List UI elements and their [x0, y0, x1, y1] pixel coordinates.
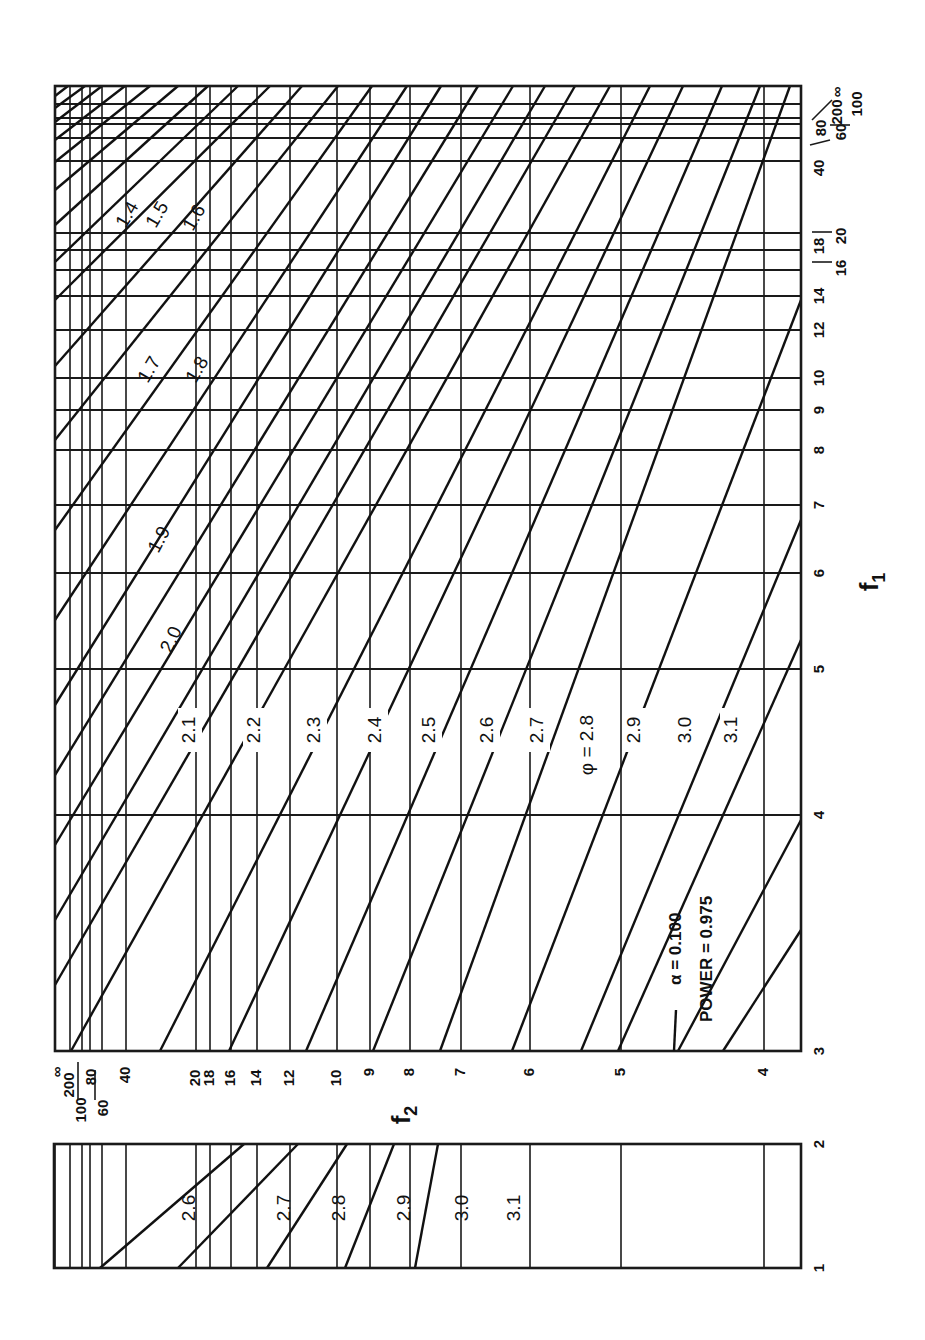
f1-tick-label: 12	[810, 322, 827, 339]
main-chart-grid	[55, 86, 801, 1051]
f1-tick-label: 14	[810, 287, 827, 304]
phi-curve-label: 1.7	[133, 353, 164, 386]
alpha-annotation: α = 0.100	[666, 913, 685, 985]
f1-tick-label: 20	[832, 228, 849, 245]
phi-curve	[512, 300, 801, 1051]
f1-axis-ticks: ∞2001008060402018161412109876543	[810, 86, 865, 1055]
f2-tick-label: 60	[94, 1100, 111, 1117]
f1-tick-label: 200	[828, 99, 845, 124]
tick-separator	[810, 140, 830, 145]
inset-phi-curves	[100, 1144, 438, 1268]
phi-curve	[723, 930, 801, 1051]
inset-f1-axis-ticks: 21	[810, 1140, 827, 1272]
phi-curve-label: φ = 2.8	[576, 715, 597, 775]
power-chart: 1.41.51.61.71.81.92.02.12.22.32.42.52.62…	[0, 0, 925, 1340]
f2-tick-label: 16	[221, 1070, 238, 1087]
f2-tick-label: 100	[72, 1097, 89, 1122]
main-chart-frame	[55, 86, 801, 1051]
phi-curve	[55, 86, 478, 775]
inset-phi-curve-label: 3.1	[503, 1195, 524, 1221]
f1-tick-label: 40	[810, 160, 827, 177]
inset-phi-curve	[415, 1144, 438, 1268]
f2-tick-label: 14	[247, 1069, 264, 1086]
f2-tick-label: 7	[451, 1068, 468, 1076]
phi-curve-label: 1.8	[181, 353, 212, 386]
f1-tick-label: 18	[810, 238, 827, 255]
phi-curve-label: 2.3	[303, 717, 324, 743]
f1-tick-label: 4	[810, 810, 827, 819]
f1-tick-label: ∞	[828, 86, 845, 97]
f2-tick-label: 40	[116, 1067, 133, 1084]
f2-tick-label: 80	[82, 1069, 99, 1086]
phi-curve-label: 3.0	[674, 717, 695, 743]
inset-phi-curve-label: 2.6	[178, 1195, 199, 1221]
phi-curve	[160, 86, 650, 1051]
f1-axis-title: f1	[854, 573, 889, 592]
main-phi-curves	[55, 86, 801, 1051]
phi-curve-label: 1.9	[143, 523, 174, 556]
phi-curve-label: 2.5	[418, 717, 439, 743]
f2-tick-label: 4	[754, 1067, 771, 1076]
phi-curve-label: 2.9	[623, 717, 644, 743]
f2-tick-label: 12	[280, 1070, 297, 1087]
f1-tick-label: 7	[810, 501, 827, 509]
phi-curve-label: 2.6	[476, 717, 497, 743]
phi-curve-label: 2.2	[243, 717, 264, 743]
inset-phi-curve	[100, 1144, 244, 1268]
phi-curve-label: 1.5	[141, 198, 172, 231]
f2-tick-label: 6	[520, 1068, 537, 1076]
f1-tick-label: 10	[810, 370, 827, 387]
f2-tick-label: 8	[400, 1068, 417, 1076]
f2-tick-label: 18	[200, 1070, 217, 1087]
f2-tick-label: 5	[611, 1068, 628, 1076]
phi-curve-label: 3.1	[720, 717, 741, 743]
inset-phi-curve-label: 2.9	[393, 1195, 414, 1221]
phi-curve-label: 1.6	[178, 201, 209, 234]
f1-tick-label: 6	[810, 569, 827, 577]
inset-phi-curve-label: 2.8	[328, 1195, 349, 1221]
phi-curve-label: 2.4	[364, 716, 385, 743]
f1-tick-label: 60	[832, 124, 849, 141]
phi-curve	[71, 86, 610, 1051]
inset-phi-labels: 2.62.72.82.93.03.1	[178, 1195, 524, 1221]
f2-tick-label: 200	[60, 1072, 77, 1097]
f1-tick-label: 8	[810, 446, 827, 454]
phi-curve-label: 2.1	[178, 717, 199, 743]
phi-curve-label: 2.7	[526, 717, 547, 743]
phi-curve	[306, 86, 722, 1051]
f1-tick-label: 16	[832, 260, 849, 277]
f1-tick-label: 3	[810, 1047, 827, 1055]
f2-tick-label: 9	[360, 1068, 377, 1076]
alpha-leader-line	[674, 1010, 676, 1051]
f1-tick-label: 5	[810, 665, 827, 673]
f2-tick-label: 10	[327, 1070, 344, 1087]
f1-tick-label: 80	[812, 120, 829, 137]
inset-f1-tick-label: 1	[810, 1264, 827, 1272]
inset-phi-curve-label: 3.0	[451, 1195, 472, 1221]
f1-tick-label: 9	[810, 406, 827, 414]
inset-phi-curve-label: 2.7	[273, 1195, 294, 1221]
phi-curve	[55, 86, 68, 96]
phi-curve-label: 2.0	[156, 623, 186, 656]
power-annotation: POWER = 0.975	[697, 896, 716, 1022]
f1-tick-label: 100	[848, 91, 865, 116]
inset-f1-tick-label: 2	[810, 1140, 827, 1148]
f2-axis-title: f2	[386, 1106, 421, 1125]
